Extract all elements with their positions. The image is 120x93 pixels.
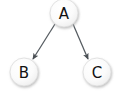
node-b[interactable]: B <box>10 58 38 86</box>
node-b-label: B <box>19 64 29 82</box>
edge-group <box>33 24 88 59</box>
diagram-canvas: A B C <box>0 0 120 93</box>
edge-a-b[interactable] <box>33 24 55 59</box>
node-c[interactable]: C <box>83 58 111 86</box>
edge-a-c[interactable] <box>73 24 88 59</box>
node-c-label: C <box>92 64 102 82</box>
node-a[interactable]: A <box>50 0 78 27</box>
graph-svg: A B C <box>0 0 120 93</box>
node-a-label: A <box>59 5 70 23</box>
